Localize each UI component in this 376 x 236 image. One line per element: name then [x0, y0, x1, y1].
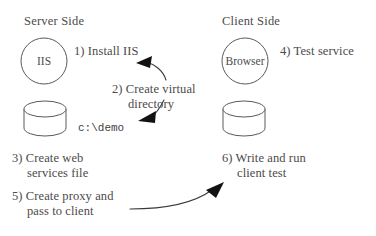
- arrow-install-iis-icon: [130, 54, 200, 94]
- step-1-install-iis: 1) Install IIS: [74, 44, 139, 59]
- client-side-heading: Client Side: [222, 14, 280, 29]
- iis-node-label: IIS: [20, 55, 68, 67]
- arrow-proxy-to-client-icon: [128, 182, 248, 232]
- server-database-cylinder-shape: [23, 100, 71, 140]
- step-6-write-and-run-client-test-line2: client test: [237, 166, 286, 181]
- step-3-create-web-services-file-line2: services file: [27, 166, 88, 181]
- step-6-write-and-run-client-test-line1: 6) Write and run: [222, 151, 306, 166]
- arrow-virtual-directory-icon: [132, 98, 192, 138]
- step-3-create-web-services-file-line1: 3) Create web: [12, 151, 83, 166]
- step-5-create-proxy-line1: 5) Create proxy and: [12, 189, 114, 204]
- browser-node-label: Browser: [210, 55, 280, 67]
- step-4-test-service: 4) Test service: [280, 44, 354, 59]
- step-5-create-proxy-line2: pass to client: [27, 204, 94, 219]
- demo-path-label: c:\demo: [78, 122, 124, 135]
- client-database-cylinder-shape: [222, 100, 270, 140]
- diagram-canvas: Server Side Client Side IIS Browser 1) I…: [0, 0, 376, 236]
- server-side-heading: Server Side: [24, 14, 84, 29]
